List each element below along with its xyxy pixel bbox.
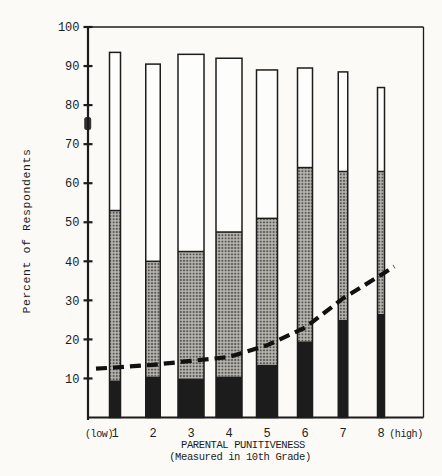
y-tick-label-90: 90: [65, 60, 79, 74]
x-axis-low-label: (low): [85, 429, 113, 440]
x-tick-label-8: 8: [377, 427, 384, 441]
y-tick-label-80: 80: [65, 99, 79, 113]
ink-smudge: [84, 117, 91, 130]
stacked-bar-chart: 10203040506070809010012345678(low)(high): [0, 0, 442, 476]
bar-6: [298, 68, 313, 417]
bar-5: [257, 70, 278, 418]
x-tick-label-7: 7: [339, 427, 346, 441]
bar-1-black-segment: [110, 380, 121, 417]
y-tick-label-60: 60: [65, 177, 79, 191]
bar-2-black-segment: [146, 376, 161, 417]
bar-1: [110, 52, 121, 417]
bar-5-black-segment: [257, 365, 278, 418]
bar-1-shaded-segment: [110, 211, 121, 381]
x-axis-title-line1: PARENTAL PUNITIVENESS: [181, 439, 305, 451]
bar-3-black-segment: [178, 378, 204, 417]
y-tick-label-100: 100: [58, 21, 80, 35]
bar-8-black-segment: [378, 314, 385, 417]
y-tick-label-20: 20: [65, 334, 79, 348]
y-tick-label-30: 30: [65, 295, 79, 309]
y-tick-label-40: 40: [65, 256, 79, 270]
y-tick-label-70: 70: [65, 138, 79, 152]
bar-6-shaded-segment: [298, 168, 313, 342]
bar-4: [216, 58, 242, 417]
bar-4-black-segment: [216, 376, 242, 417]
bar-8-shaded-segment: [378, 171, 385, 314]
x-axis-title-line2: (Measured in 10th Grade): [169, 451, 311, 463]
y-tick-label-10: 10: [65, 373, 79, 387]
bar-8: [378, 88, 385, 418]
dashed-trend-line: [96, 266, 394, 368]
bar-5-shaded-segment: [257, 218, 278, 364]
x-axis-high-label: (high): [389, 429, 423, 440]
bar-7-black-segment: [338, 320, 348, 418]
x-tick-label-2: 2: [149, 427, 156, 441]
bar-7: [338, 72, 348, 418]
scanned-figure: Percent of Respondents 10203040506070809…: [0, 0, 442, 476]
bar-6-black-segment: [298, 341, 313, 417]
bar-2-shaded-segment: [146, 261, 161, 376]
y-tick-label-50: 50: [65, 216, 79, 230]
